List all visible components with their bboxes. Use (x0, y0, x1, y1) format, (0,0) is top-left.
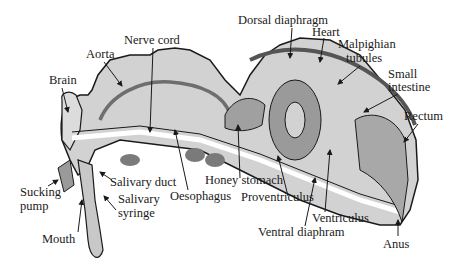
label-salivary: Salivary (118, 192, 160, 206)
label-malpighian: Malpighian (338, 37, 396, 51)
proboscis (78, 160, 103, 257)
honeybee-anatomy-diagram: Nerve cord Aorta Brain Dorsal diaphragm … (0, 0, 458, 272)
label-brain: Brain (49, 73, 78, 87)
label-proventriculus: Proventriculus (241, 190, 314, 204)
label-ventral-diaphram: Ventral diaphram (258, 225, 345, 239)
label-oesophagus: Oesophagus (170, 189, 231, 203)
label-salivary-duct: Salivary duct (110, 175, 177, 189)
label-syringe: syringe (118, 206, 155, 220)
label-honey-stomach: Honey stomach (205, 173, 284, 187)
label-sucking: Sucking (20, 185, 62, 199)
label-tubules: tubules (346, 51, 382, 65)
label-mouth: Mouth (42, 232, 76, 246)
ventriculus-coil (269, 80, 321, 160)
label-heart: Heart (312, 25, 340, 39)
label-ventriculus: Ventriculus (312, 211, 369, 225)
label-nerve-cord: Nerve cord (124, 33, 181, 47)
label-pump: pump (20, 199, 48, 213)
label-aorta: Aorta (86, 47, 115, 61)
label-intestine: intestine (388, 80, 431, 94)
label-anus: Anus (383, 237, 410, 251)
label-small: Small (388, 67, 418, 81)
label-rectum: Rectum (404, 109, 443, 123)
